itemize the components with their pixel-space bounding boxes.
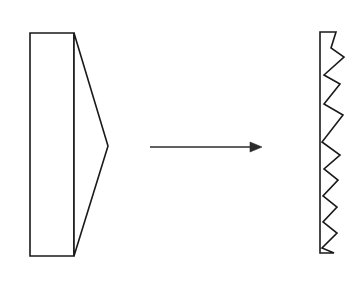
diagram-svg xyxy=(0,0,364,289)
wedge-rectangle-face xyxy=(30,33,74,256)
arrow-head-icon xyxy=(250,142,262,152)
sawtooth-strip-outline xyxy=(320,32,344,253)
wedge-taper-triangle xyxy=(74,33,108,256)
diagram-canvas xyxy=(0,0,364,289)
